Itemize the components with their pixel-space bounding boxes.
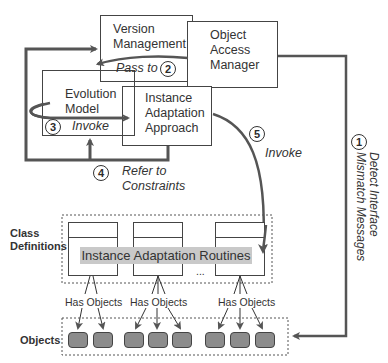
object-access-manager-label: Object Access Manager xyxy=(210,28,259,73)
object-instance xyxy=(68,332,88,348)
step-5-badge: 5 xyxy=(249,126,265,142)
step-3-badge: 3 xyxy=(45,119,61,135)
instance-adaptation-routines-bar: Instance Adaptation Routines xyxy=(80,247,252,264)
instance-adaptation-approach-label: Instance Adaptation Approach xyxy=(145,91,205,136)
step-3-label: Invoke xyxy=(72,119,109,134)
object-instance xyxy=(205,332,225,348)
class-definitions-label: Class Definitions xyxy=(10,227,67,253)
instance-adaptation-approach-box: Instance Adaptation Approach xyxy=(122,86,212,146)
step-4-badge: 4 xyxy=(93,165,109,181)
has-objects-label: Has Objects xyxy=(65,295,122,310)
step-4-label: Refer to Constraints xyxy=(122,164,185,194)
step-1-label-line2: Mismatch Messages xyxy=(354,152,368,261)
ellipsis: ... xyxy=(196,264,205,279)
step-2-badge: 2 xyxy=(160,61,176,77)
step-5-label: Invoke xyxy=(265,146,302,161)
object-instance xyxy=(124,332,144,348)
objects-label: Objects xyxy=(20,334,60,347)
object-instance xyxy=(255,332,275,348)
has-objects-label: Has Objects xyxy=(218,295,275,310)
step-1-label-line1: Detect Interface xyxy=(367,152,381,237)
evolution-model-label: Evolution Model xyxy=(65,87,116,117)
object-instance xyxy=(148,332,168,348)
version-management-label: Version Management xyxy=(113,22,186,52)
object-instance xyxy=(172,332,192,348)
step-2-label: Pass to xyxy=(116,61,158,76)
detect-mismatch-line xyxy=(277,56,346,336)
object-instance xyxy=(230,332,250,348)
object-instance xyxy=(93,332,113,348)
object-access-manager-box: Object Access Manager xyxy=(187,21,278,88)
has-objects-label: Has Objects xyxy=(130,295,187,310)
step-1-badge: 1 xyxy=(351,134,367,150)
